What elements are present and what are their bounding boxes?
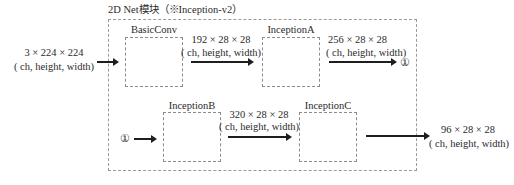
block-inceptionb — [163, 112, 221, 162]
block-label-inceptionb: InceptionB — [163, 100, 221, 112]
module-title: 2D Net模块（※Inception-v2） — [108, 4, 242, 16]
edge1-arrow — [191, 61, 249, 63]
output-arrow — [366, 135, 425, 137]
block-basicconv — [125, 37, 183, 87]
edge1-shape-label: 192 × 28 × 28 — [186, 34, 256, 46]
block-label-inceptionc: InceptionC — [299, 100, 357, 112]
input-shape-label: 3 × 224 × 224 — [14, 47, 94, 59]
input-dims-label: ( ch, height, width) — [10, 61, 98, 73]
block-inceptiona — [262, 37, 320, 87]
edge2-shape-label: 256 × 28 × 28 — [328, 34, 387, 46]
block-label-inceptiona: InceptionA — [262, 24, 320, 36]
edge3-arrow — [228, 136, 287, 138]
output-dims-label: ( ch, height, width) — [426, 138, 512, 150]
block-label-basicconv: BasicConv — [125, 24, 183, 36]
connector-in-arrow — [134, 138, 152, 140]
edge3-shape-label: 320 × 28 × 28 — [224, 109, 294, 121]
output-shape-label: 96 × 28 × 28 — [432, 124, 504, 136]
edge2-arrow — [329, 61, 392, 63]
input-arrow — [97, 61, 114, 63]
connector-out-marker: ① — [399, 56, 411, 68]
block-inceptionc — [299, 112, 357, 162]
connector-in-marker: ① — [119, 132, 131, 144]
edge3-dims-label: ( ch, height, width) — [218, 121, 300, 133]
